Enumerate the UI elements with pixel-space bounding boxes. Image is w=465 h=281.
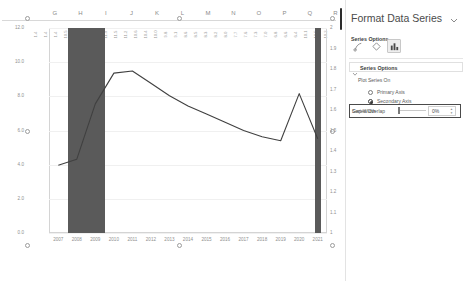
series-options-section-title: Series Options: [360, 63, 397, 73]
category-axis-label: 2007: [49, 235, 68, 244]
gap-width-slider[interactable]: [398, 110, 426, 111]
secondary-axis-tick: 1.6: [327, 107, 339, 113]
primary-value-axis[interactable]: 0.02.04.06.08.010.012.0: [3, 28, 27, 233]
category-axis-label: 2017: [234, 235, 253, 244]
series-options-section-header[interactable]: Series Options: [349, 62, 463, 72]
category-axis-label: 2011: [123, 235, 142, 244]
pane-icon-tab-row: [351, 38, 461, 54]
secondary-axis-tick: 2: [327, 25, 339, 31]
line-series[interactable]: [49, 28, 327, 233]
gap-width-slider-knob[interactable]: [398, 107, 400, 114]
primary-axis-tick: 0.0: [2, 230, 27, 236]
secondary-axis-tick: 1.5: [327, 128, 339, 134]
excel-chart-format-window: GHIJKLMNOPQR 1.41.41.410.510.011.311.711…: [0, 0, 465, 281]
resize-handle-top-middle[interactable]: [177, 16, 182, 21]
pane-divider: [349, 58, 463, 59]
secondary-axis-tick: 1.8: [327, 66, 339, 72]
category-axis-label: 2019: [271, 235, 290, 244]
primary-axis-tick: 10.0: [2, 59, 27, 65]
primary-axis-tick: 2.0: [2, 196, 27, 202]
secondary-axis-tick: 1.3: [327, 169, 339, 175]
secondary-value-axis[interactable]: 11.11.21.31.41.51.61.71.81.92: [327, 28, 339, 233]
series-options-dropdown[interactable]: Series Options: [351, 27, 399, 36]
effects-icon[interactable]: [369, 39, 383, 53]
primary-axis-tick: 12.0: [2, 25, 27, 31]
pane-splitter[interactable]: [339, 0, 342, 281]
gap-width-value: 0%: [432, 107, 439, 116]
pane-splitter-grip[interactable]: [340, 8, 342, 30]
secondary-axis-tick: 1: [327, 230, 339, 236]
category-axis-label: 2009: [86, 235, 105, 244]
resize-handle-top-right[interactable]: [330, 16, 335, 21]
primary-axis-tick: 4.0: [2, 162, 27, 168]
secondary-axis-tick: 1.4: [327, 148, 339, 154]
secondary-axis-tick: 1.7: [327, 87, 339, 93]
chevron-down-icon[interactable]: [352, 64, 358, 72]
category-axis-label: 2015: [197, 235, 216, 244]
category-axis[interactable]: 2007200820092010201120122013201420152016…: [49, 235, 327, 244]
pane-title: Format Data Series: [351, 12, 442, 24]
chart-object[interactable]: 0.02.04.06.08.010.012.0 11.11.21.31.41.5…: [27, 18, 333, 246]
stepper-arrows-icon[interactable]: ▲▼: [449, 107, 454, 116]
gap-width-label: Gap Width: [352, 106, 376, 116]
primary-axis-tick: 6.0: [2, 128, 27, 134]
plot-area[interactable]: [49, 28, 327, 233]
category-axis-label: 2018: [253, 235, 272, 244]
secondary-axis-tick: 1.2: [327, 189, 339, 195]
resize-handle-bottom-left[interactable]: [25, 243, 30, 248]
fill-line-icon[interactable]: [351, 39, 365, 53]
worksheet-area: GHIJKLMNOPQR 1.41.41.410.510.011.311.711…: [0, 0, 339, 281]
secondary-axis-tick: 1.1: [327, 210, 339, 216]
pane-header: Format Data Series: [351, 8, 461, 24]
category-axis-label: 2012: [142, 235, 161, 244]
radio-circle-icon[interactable]: [368, 90, 373, 95]
resize-handle-top-left[interactable]: [25, 16, 30, 21]
plot-series-on-label: Plot Series On: [358, 76, 390, 84]
primary-axis-tick: 8.0: [2, 93, 27, 99]
format-data-series-pane: Format Data Series Series Options: [345, 0, 465, 281]
primary-axis-label: Primary Axis: [377, 88, 405, 96]
category-axis-label: 2021: [308, 235, 327, 244]
category-axis-label: 2020: [290, 235, 309, 244]
category-axis-label: 2008: [68, 235, 87, 244]
category-axis-label: 2013: [160, 235, 179, 244]
category-axis-label: 2010: [105, 235, 124, 244]
category-axis-label: 2014: [179, 235, 198, 244]
secondary-axis-tick: 1.9: [327, 46, 339, 52]
category-axis-label: 2016: [216, 235, 235, 244]
gridline: [49, 233, 327, 234]
line-series-path[interactable]: [58, 71, 317, 165]
series-options-icon[interactable]: [387, 39, 401, 53]
gap-width-stepper[interactable]: 0% ▲▼: [428, 106, 456, 116]
radio-circle-selected-icon[interactable]: [368, 99, 373, 104]
resize-handle-bottom-right[interactable]: [330, 243, 335, 248]
chevron-down-icon[interactable]: [449, 11, 459, 21]
